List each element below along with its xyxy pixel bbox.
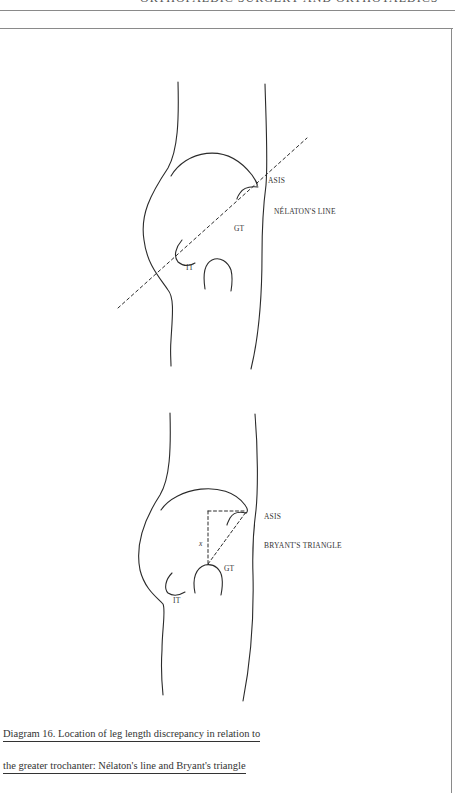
top-gt-label: GT [234, 224, 245, 233]
top-gt-arch [204, 259, 232, 291]
nelaton-line [118, 138, 307, 308]
bottom-right-outline [243, 414, 257, 701]
figure-caption-line-1: Diagram 16. Location of leg length discr… [3, 728, 260, 742]
nelaton-panel: ASIS NÉLATON'S LINE GT IT [118, 82, 336, 369]
bryant-panel: ASIS BRYANT'S TRIANGLE GT IT x [139, 413, 342, 701]
top-asis-label: ASIS [268, 176, 285, 185]
bryant-hypotenuse [208, 512, 246, 564]
figure-diagram: ASIS NÉLATON'S LINE GT IT ASIS BRYANT'S … [0, 0, 468, 793]
bottom-asis-hook [227, 512, 246, 525]
top-asis-hook [237, 187, 258, 199]
bottom-it-hook [166, 573, 185, 595]
top-it-hook [175, 240, 195, 266]
figure-caption-line-2: the greater trochanter: Nélaton's line a… [3, 760, 246, 774]
bottom-it-label: IT [173, 596, 181, 605]
bryant-title: BRYANT'S TRIANGLE [264, 541, 342, 550]
top-iliac-crest [171, 153, 257, 186]
top-right-outline [251, 84, 267, 369]
bottom-iliac-crest [161, 489, 247, 513]
bottom-asis-label: ASIS [264, 512, 281, 521]
top-left-outline [143, 82, 178, 366]
bottom-gt-arch [194, 565, 222, 595]
top-it-label: IT [186, 263, 194, 272]
bottom-gt-label: GT [224, 564, 235, 573]
nelaton-title: NÉLATON'S LINE [274, 206, 336, 216]
bottom-left-outline [139, 413, 171, 695]
bryant-x-label: x [198, 539, 203, 548]
